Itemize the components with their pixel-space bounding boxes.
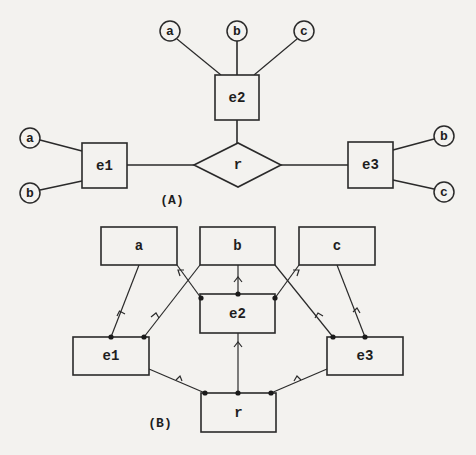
node-c: c — [299, 227, 375, 265]
node-e2: e2 — [200, 294, 275, 333]
attribute-label: c — [300, 24, 308, 39]
er-diagrams: a b c a b b c e1 — [0, 0, 476, 455]
node-r: r — [201, 393, 276, 432]
node-label: e3 — [357, 348, 374, 364]
relationship-label: r — [234, 157, 242, 173]
attribute-b-right: b — [434, 126, 454, 146]
node-a: a — [101, 227, 177, 265]
entity-label: e3 — [362, 157, 379, 173]
entity-label: e2 — [229, 90, 246, 106]
caption-a: (A) — [160, 193, 183, 208]
entity-e2: e2 — [215, 75, 259, 120]
attribute-a-left: a — [20, 128, 40, 148]
attribute-label: b — [233, 24, 241, 39]
node-label: a — [135, 238, 144, 254]
diagram-b: a b c e1 e2 e3 r — [73, 227, 403, 432]
attribute-b-left: b — [20, 183, 40, 203]
relationship-r: r — [194, 143, 281, 187]
attribute-label: b — [26, 186, 34, 201]
node-label: b — [233, 238, 241, 254]
edge-c-top-e2 — [254, 39, 297, 75]
attribute-c-top: c — [294, 21, 314, 41]
edge-e3-b-right — [393, 139, 434, 150]
attribute-c-right: c — [434, 182, 454, 202]
node-label: e1 — [103, 348, 120, 364]
attribute-label: a — [166, 24, 174, 39]
node-e1: e1 — [73, 337, 149, 375]
edge-e3-c-right — [393, 180, 434, 189]
entity-e1: e1 — [82, 143, 127, 188]
node-e3: e3 — [327, 337, 403, 375]
entity-e3: e3 — [348, 142, 393, 188]
attribute-label: b — [440, 129, 448, 144]
caption-b: (B) — [148, 416, 171, 431]
edge-e3-b — [275, 265, 333, 337]
diagram-canvas: a b c a b b c e1 — [0, 0, 476, 455]
attribute-a-top: a — [160, 21, 180, 41]
edge-a-top-e2 — [177, 39, 221, 75]
edge-a-left-e1 — [40, 140, 82, 151]
edge-b-left-e1 — [40, 181, 82, 190]
edge-e1-a — [111, 265, 139, 337]
entity-label: e1 — [96, 158, 113, 174]
edge-r-e3 — [271, 369, 327, 393]
node-label: e2 — [229, 306, 246, 322]
edge-e3-c — [337, 265, 365, 337]
node-label: r — [234, 405, 242, 421]
attribute-b-top: b — [227, 21, 247, 41]
edge-e1-b — [144, 265, 200, 337]
node-label: c — [333, 238, 341, 254]
edge-r-e1 — [149, 369, 205, 393]
node-b: b — [200, 227, 275, 265]
attribute-label: a — [26, 131, 34, 146]
attribute-label: c — [440, 185, 448, 200]
diagram-a: a b c a b b c e1 — [20, 21, 454, 208]
